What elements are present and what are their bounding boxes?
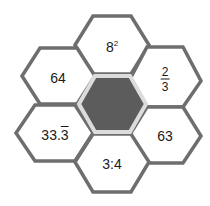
fraction-numerator: 2 bbox=[161, 66, 170, 80]
power-exponent: 2 bbox=[114, 39, 118, 48]
hex-center bbox=[79, 76, 146, 132]
hexagon-diagram bbox=[0, 0, 210, 206]
cell-lower-right-label: 63 bbox=[157, 129, 173, 143]
cell-top-label: 82 bbox=[106, 40, 118, 54]
decimal-prefix: 33. bbox=[41, 127, 60, 143]
power-base: 8 bbox=[106, 39, 114, 55]
repeating-digit: 3 bbox=[61, 127, 69, 143]
fraction: 2 3 bbox=[161, 66, 170, 93]
cell-bottom-label: 3:4 bbox=[102, 157, 121, 171]
cell-upper-right-label: 2 3 bbox=[161, 64, 170, 93]
fraction-denominator: 3 bbox=[162, 80, 169, 93]
cell-upper-left-label: 64 bbox=[50, 71, 66, 85]
cell-lower-left-label: 33.3 bbox=[41, 128, 68, 142]
